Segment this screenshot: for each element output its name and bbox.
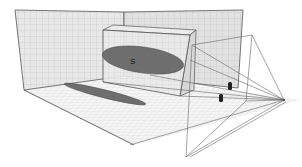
observer-point — [283, 99, 285, 101]
marker-upper — [228, 82, 232, 90]
diagram-canvas: S — [0, 0, 302, 167]
object-s-label: S — [130, 57, 135, 66]
marker-lower — [219, 94, 223, 102]
